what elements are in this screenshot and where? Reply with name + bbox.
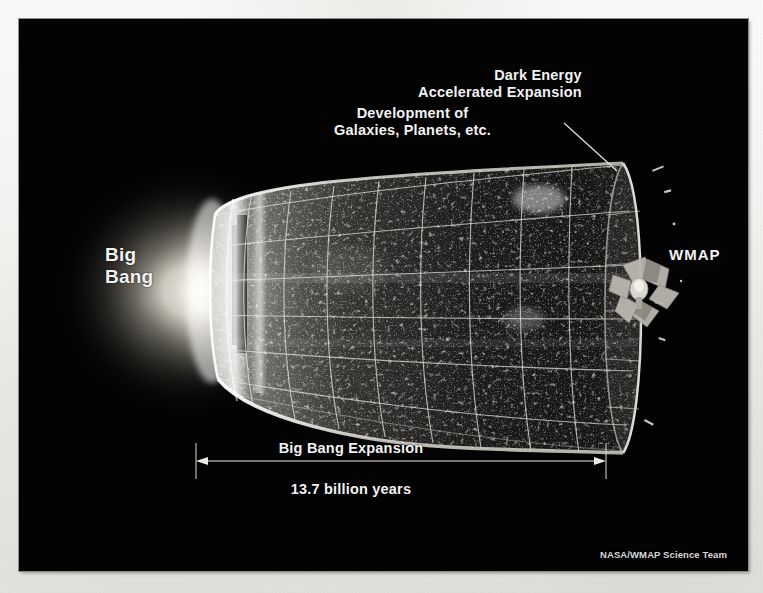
figure-plate: Big Bang Development of Galaxies, Planet…	[19, 19, 748, 571]
arrow-left-head-icon	[196, 457, 208, 465]
arrow-right-head-icon	[594, 457, 606, 465]
expanding-universe-cone	[199, 149, 682, 469]
universe-cone-illustration	[19, 19, 748, 571]
